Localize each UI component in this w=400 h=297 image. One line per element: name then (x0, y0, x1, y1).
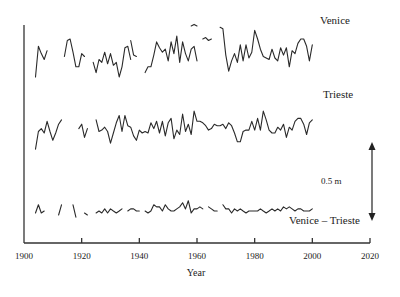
scale-arrow-up-icon (369, 142, 376, 150)
x-tick-label: 2000 (303, 251, 322, 261)
series-segment (203, 38, 212, 41)
series-segment (96, 111, 312, 143)
series-segment (79, 124, 88, 137)
scale-bar: 0.5 m (321, 142, 376, 221)
series-segment (64, 39, 84, 67)
scale-arrow-down-icon (369, 213, 376, 221)
series-segment (131, 41, 137, 57)
x-tick-label: 2020 (361, 251, 380, 261)
series-segment (145, 201, 203, 213)
x-axis-ticks (82, 238, 370, 243)
series-segment (36, 205, 45, 213)
series-segment (220, 27, 312, 71)
series-segment (96, 209, 122, 213)
series-segment (128, 209, 140, 211)
series-venice (36, 24, 313, 77)
label-trieste: Trieste (323, 88, 353, 100)
x-tick-label: 1940 (130, 251, 149, 261)
series-segment (73, 205, 76, 217)
x-tick-label: 1960 (188, 251, 207, 261)
label-venice: Venice (320, 14, 350, 26)
series-segment (223, 205, 312, 213)
series-venice-minus-trieste (36, 201, 313, 217)
x-tick-label: 1920 (73, 251, 92, 261)
series-segment (36, 46, 48, 77)
series-segment (36, 120, 62, 149)
scale-bar-label: 0.5 m (321, 176, 342, 186)
series-segment (59, 205, 62, 215)
label-venice-minus-trieste: Venice – Trieste (289, 214, 360, 226)
series-segment (145, 36, 197, 73)
x-axis-label: Year (187, 267, 206, 278)
series-trieste (36, 111, 313, 149)
series-segment (191, 24, 197, 26)
x-tick-label: 1980 (246, 251, 265, 261)
series-segment (93, 46, 131, 77)
x-tick-label: 1900 (15, 251, 34, 261)
series-segment (209, 207, 218, 211)
series-segment (85, 213, 88, 215)
sea-level-chart: 1900192019401960198020002020 Year Venice… (0, 0, 400, 297)
x-axis-tick-labels: 1900192019401960198020002020 (15, 251, 380, 261)
